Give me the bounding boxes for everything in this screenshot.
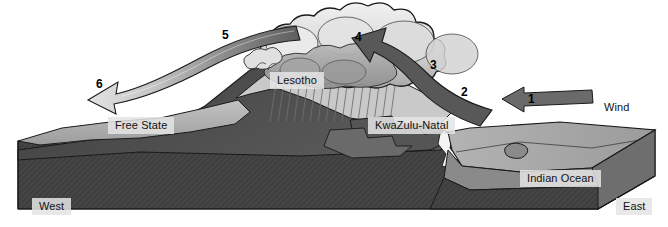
diagram-canvas [0, 0, 668, 227]
label-kwazulu-natal: KwaZulu-Natal [368, 117, 455, 134]
step-number-4: 4 [355, 31, 362, 43]
ocean-island [505, 143, 528, 158]
label-wind: Wind [604, 101, 629, 113]
label-west: West [32, 198, 71, 215]
label-east: East [616, 198, 652, 215]
step-number-3: 3 [430, 59, 437, 71]
arrow-1-onshore-wind [502, 87, 593, 112]
cloud-dark-lobe-b [322, 60, 366, 84]
step-number-5: 5 [222, 29, 229, 41]
label-free-state: Free State [108, 117, 174, 134]
label-indian-ocean: Indian Ocean [520, 170, 601, 187]
step-number-6: 6 [96, 78, 103, 90]
orographic-rainfall-diagram: Lesotho Free State KwaZulu-Natal Indian … [0, 0, 668, 227]
label-lesotho: Lesotho [270, 72, 324, 89]
step-number-1: 1 [528, 93, 535, 105]
step-number-2: 2 [461, 86, 468, 98]
